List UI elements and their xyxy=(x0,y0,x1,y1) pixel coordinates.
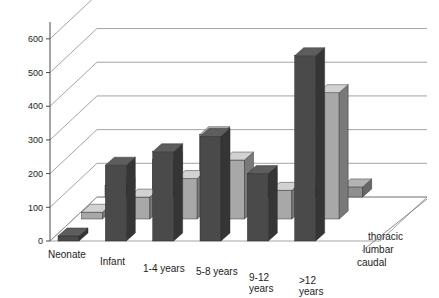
category-label: 9-12 xyxy=(249,272,269,283)
bar-caudal-9-12-years xyxy=(247,166,277,241)
bar-front-face xyxy=(58,236,79,241)
category-label: 5-8 years xyxy=(196,266,238,277)
bar-caudal--12-years xyxy=(295,48,325,241)
category-label: years xyxy=(249,283,273,294)
grid-line xyxy=(50,96,427,140)
bar-front-face xyxy=(247,174,268,241)
category-label: years xyxy=(299,286,323,297)
series-label-lumbar: lumbar xyxy=(363,244,394,255)
y-tick-labels: 0100200300400500600 xyxy=(28,34,50,246)
bar-caudal-infant xyxy=(105,157,135,241)
y-tick-label: 300 xyxy=(28,135,43,145)
grid-line xyxy=(50,29,427,73)
y-tick-label: 100 xyxy=(28,203,43,213)
bar-front-face xyxy=(82,212,103,219)
chart-canvas: 0100200300400500600 NeonateInfant1-4 yea… xyxy=(0,0,439,298)
bar-front-face xyxy=(295,56,316,241)
y-tick-label: 400 xyxy=(28,101,43,111)
bar-side-face xyxy=(126,157,135,241)
bar-front-face xyxy=(105,165,126,241)
category-label: Infant xyxy=(100,256,125,267)
bar-front-face xyxy=(200,137,221,241)
bar-side-face xyxy=(268,166,277,241)
y-tick-label: 200 xyxy=(28,169,43,179)
series-labels: thoraciclumbarcaudal xyxy=(357,199,427,268)
bars xyxy=(58,48,372,241)
y-tick-label: 500 xyxy=(28,68,43,78)
bar-front-face xyxy=(153,152,174,241)
bar-side-face xyxy=(221,129,230,241)
grid-line xyxy=(50,62,427,106)
y-tick-label: 600 xyxy=(28,34,43,44)
bar-chart-3d: 0100200300400500600 NeonateInfant1-4 yea… xyxy=(0,0,439,298)
bar-caudal-5-8-years xyxy=(200,129,230,241)
category-label: Neonate xyxy=(48,249,86,260)
category-label: 1-4 years xyxy=(143,263,185,274)
category-labels: NeonateInfant1-4 years5-8 years9-12years… xyxy=(48,249,323,297)
depth-axis-leader-line xyxy=(362,199,427,251)
grid-line xyxy=(50,0,427,39)
series-label-caudal: caudal xyxy=(357,257,386,268)
bar-caudal-neonate xyxy=(58,228,88,241)
bar-side-face xyxy=(316,48,325,241)
y-tick-label: 0 xyxy=(38,236,43,246)
bar-caudal-1-4-years xyxy=(153,144,183,241)
bar-side-face xyxy=(339,85,348,219)
category-label: >12 xyxy=(299,275,316,286)
bar-side-face xyxy=(174,144,183,241)
